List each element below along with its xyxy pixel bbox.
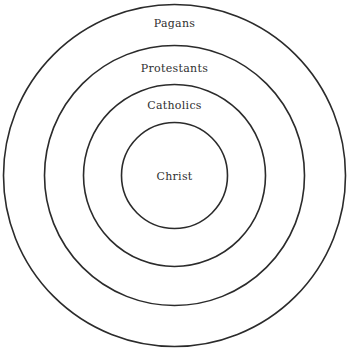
label-pagans: Pagans <box>154 17 196 30</box>
label-christ: Christ <box>156 170 192 183</box>
label-catholics: Catholics <box>147 99 202 112</box>
label-protestants: Protestants <box>141 62 208 75</box>
ring-christ: Christ <box>122 123 228 229</box>
concentric-circles-diagram: Pagans Protestants Catholics Christ <box>0 0 348 357</box>
